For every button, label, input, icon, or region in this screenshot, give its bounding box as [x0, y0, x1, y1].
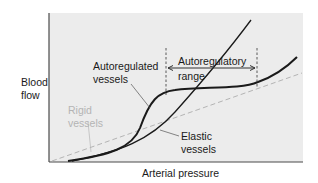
elastic-label-line2: vessels	[181, 143, 216, 155]
autoregulation-diagram: Blood flow Autoregulated vessels Autoreg…	[0, 0, 318, 183]
y-axis-label-line1: Blood	[21, 76, 48, 88]
rigid-label-line1: Rigid	[68, 104, 92, 116]
rigid-label-line2: vessels	[68, 117, 103, 129]
plot-area	[0, 0, 318, 183]
x-axis-label: Arterial pressure	[142, 167, 219, 179]
autoregulated-label-line1: Autoregulated	[93, 60, 158, 72]
autoregulated-label-line2: vessels	[93, 73, 128, 85]
autoregulated-leader-line	[131, 84, 150, 108]
elastic-vessels-curve	[72, 20, 251, 161]
elastic-leader-line	[160, 130, 179, 136]
range-label-line2: range	[178, 70, 205, 82]
range-label-line1: Autoregulatory	[178, 55, 246, 67]
elastic-label-line1: Elastic	[181, 130, 212, 142]
y-axis-label-line2: flow	[21, 89, 40, 101]
